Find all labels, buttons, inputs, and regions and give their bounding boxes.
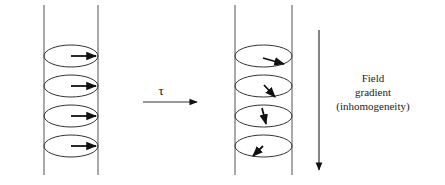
spin-vector-arrow-icon — [263, 58, 284, 64]
left-tube-spin-1 — [44, 45, 98, 67]
spin-vector-arrow-icon — [253, 146, 263, 156]
spin-ellipse — [235, 75, 292, 97]
right-tube-dephased — [235, 5, 292, 175]
left-tube-spin-2 — [44, 75, 98, 97]
left-tube-in-phase — [44, 5, 98, 175]
right-tube-spin-2 — [235, 75, 292, 97]
field-gradient-label: Field gradient (inhomogeneity) — [336, 72, 410, 113]
label-line-field: Field — [362, 72, 385, 84]
right-tube-spin-1 — [235, 45, 292, 67]
time-evolution-arrow: τ — [143, 83, 197, 102]
label-line-inhomogeneity: (inhomogeneity) — [336, 100, 410, 113]
spin-ellipse — [235, 135, 292, 157]
dephasing-diagram: τ Field gradient (inhomogeneity) — [0, 0, 445, 185]
left-tube-spin-4 — [44, 135, 98, 157]
right-tube-spin-4 — [235, 135, 292, 157]
spin-vector-arrow-icon — [264, 85, 275, 97]
spin-vector-arrow-icon — [262, 108, 266, 124]
right-tube-spin-3 — [235, 105, 292, 127]
tau-label: τ — [158, 83, 163, 98]
left-tube-spin-3 — [44, 105, 98, 127]
label-line-gradient: gradient — [355, 86, 391, 98]
